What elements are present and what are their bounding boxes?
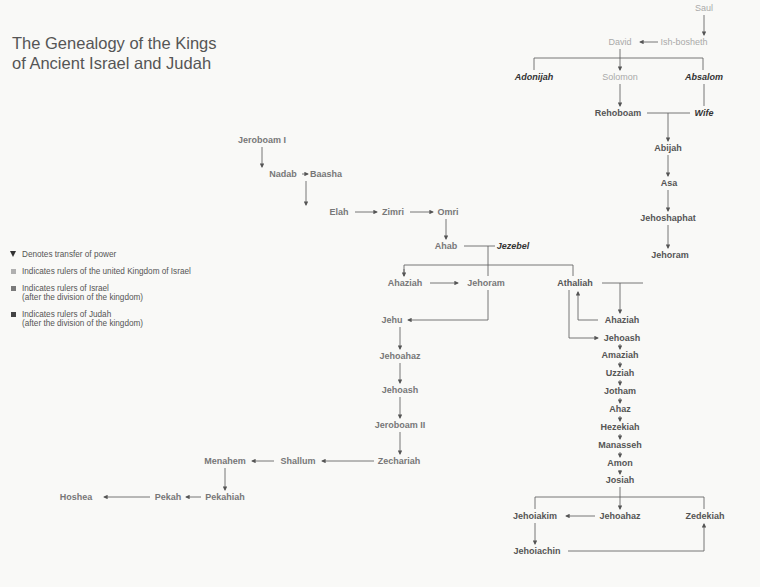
node-jehu: Jehu (381, 315, 402, 325)
node-david: David (608, 37, 631, 47)
node-jehoram-judah: Jehoram (651, 250, 689, 260)
node-baasha: Baasha (310, 169, 342, 179)
node-hezekiah: Hezekiah (600, 422, 639, 432)
node-solomon: Solomon (602, 72, 638, 82)
node-jehoshaphat: Jehoshaphat (640, 213, 696, 223)
node-athaliah: Athaliah (557, 278, 593, 288)
node-menahem: Menahem (204, 456, 246, 466)
node-jotham: Jotham (604, 386, 636, 396)
node-shallum: Shallum (280, 456, 315, 466)
node-saul: Saul (695, 3, 713, 13)
node-rehoboam: Rehoboam (595, 108, 642, 118)
node-zimri: Zimri (382, 207, 404, 217)
node-jehoahaz-judah: Jehoahaz (599, 511, 640, 521)
node-ahab: Ahab (435, 241, 458, 251)
node-uzziah: Uzziah (606, 368, 635, 378)
node-nadab: Nadab (269, 169, 297, 179)
node-ahaziah-israel: Ahaziah (388, 278, 423, 288)
node-jehoiachin: Jehoiachin (513, 546, 560, 556)
node-jehoash-israel: Jehoash (382, 385, 419, 395)
node-jehoiakim: Jehoiakim (513, 511, 557, 521)
node-elah: Elah (329, 207, 348, 217)
node-pekah: Pekah (155, 492, 182, 502)
node-josiah: Josiah (606, 475, 635, 485)
node-jeroboam-ii: Jeroboam II (375, 420, 426, 430)
node-hoshea: Hoshea (60, 492, 93, 502)
node-zedekiah: Zedekiah (685, 511, 724, 521)
node-amaziah: Amaziah (601, 350, 638, 360)
node-jezebel: Jezebel (497, 241, 530, 251)
node-ish-bosheth: Ish-bosheth (660, 37, 707, 47)
node-absalom: Absalom (685, 72, 723, 82)
node-omri: Omri (437, 207, 458, 217)
node-jeroboam-i: Jeroboam I (238, 135, 286, 145)
connector-lines (0, 0, 760, 587)
node-amon: Amon (607, 458, 633, 468)
node-ahaziah-judah: Ahaziah (605, 315, 640, 325)
node-adonijah: Adonijah (515, 72, 554, 82)
node-abijah: Abijah (654, 143, 682, 153)
node-jehoram-israel: Jehoram (467, 278, 505, 288)
node-jehoahaz-israel: Jehoahaz (379, 351, 420, 361)
node-ahaz: Ahaz (609, 404, 631, 414)
node-pekahiah: Pekahiah (205, 492, 245, 502)
node-jehoash-judah: Jehoash (604, 333, 641, 343)
node-asa: Asa (661, 178, 678, 188)
node-wife: Wife (695, 108, 714, 118)
node-manasseh: Manasseh (598, 440, 642, 450)
node-zechariah: Zechariah (378, 456, 421, 466)
